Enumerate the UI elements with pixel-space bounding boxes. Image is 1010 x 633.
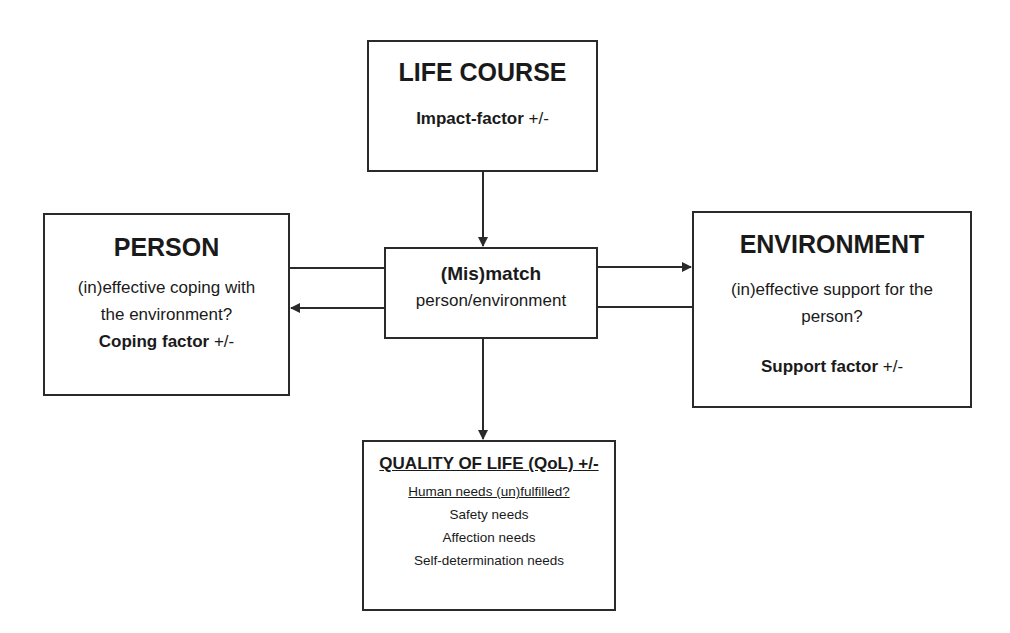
person-description-line: the environment? xyxy=(45,301,288,328)
need-item: Safety needs xyxy=(364,503,614,526)
impact-factor-label: Impact-factor +/- xyxy=(369,109,596,129)
mismatch-title: (Mis)match xyxy=(386,263,596,285)
coping-factor-sign: +/- xyxy=(209,332,234,351)
environment-title: ENVIRONMENT xyxy=(694,230,970,259)
coping-factor-label: Coping factor +/- xyxy=(45,328,288,355)
support-factor-name: Support factor xyxy=(761,357,878,376)
environment-description-line: person? xyxy=(694,303,970,330)
environment-box: ENVIRONMENT (in)effective support for th… xyxy=(692,211,972,408)
environment-description-line: (in)effective support for the xyxy=(694,276,970,303)
impact-factor-name: Impact-factor xyxy=(416,109,524,128)
coping-factor-name: Coping factor xyxy=(99,332,210,351)
need-item: Affection needs xyxy=(364,526,614,549)
quality-of-life-box: QUALITY OF LIFE (QoL) +/- Human needs (u… xyxy=(362,440,616,611)
life-course-box: LIFE COURSE Impact-factor +/- xyxy=(367,40,598,172)
person-box: PERSON (in)effective coping with the env… xyxy=(43,213,290,396)
quality-of-life-title: QUALITY OF LIFE (QoL) +/- xyxy=(364,454,614,474)
need-item: Self-determination needs xyxy=(364,549,614,572)
support-factor-sign: +/- xyxy=(878,357,903,376)
life-course-title: LIFE COURSE xyxy=(369,58,596,87)
human-needs-heading: Human needs (un)fulfilled? xyxy=(364,480,614,503)
mismatch-subtitle: person/environment xyxy=(386,291,596,311)
person-title: PERSON xyxy=(45,233,288,262)
person-description-line: (in)effective coping with xyxy=(45,274,288,301)
mismatch-box: (Mis)match person/environment xyxy=(384,247,598,339)
support-factor-label: Support factor +/- xyxy=(694,353,970,380)
impact-factor-sign: +/- xyxy=(524,109,549,128)
